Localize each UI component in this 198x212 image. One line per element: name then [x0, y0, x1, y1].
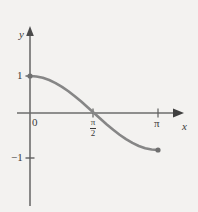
fraction-denominator: 2 [90, 129, 97, 138]
y-axis-label: y [19, 29, 24, 40]
x-axis-label: x [182, 121, 187, 132]
curve-start-marker [27, 73, 32, 78]
y-tick-label-one: 1 [17, 70, 23, 81]
y-tick-label-negative-one: −1 [11, 152, 23, 163]
x-tick-label-pi-half: π 2 [86, 118, 100, 139]
fraction-numerator: π [90, 118, 97, 127]
fraction-pi-over-two: π 2 [90, 118, 97, 139]
x-tick-label-pi: π [154, 118, 160, 129]
y-axis-arrowhead [26, 26, 34, 36]
plot-canvas [0, 0, 198, 212]
x-axis-arrowhead [173, 109, 184, 118]
curve-end-marker [155, 147, 160, 152]
cosine-graph-figure: y x 0 1 −1 π π 2 [0, 0, 198, 212]
origin-label: 0 [32, 117, 38, 128]
